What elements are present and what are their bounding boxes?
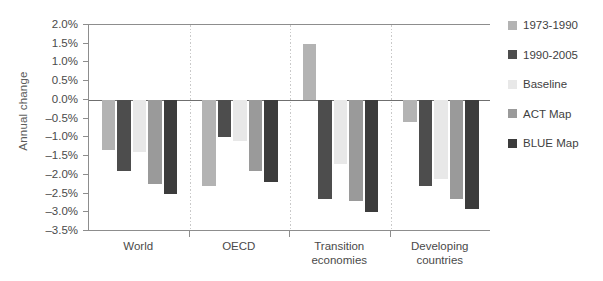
bar xyxy=(218,100,232,137)
y-axis-tick-label: –0.5% xyxy=(24,112,78,124)
y-axis-tick-label: –2.5% xyxy=(24,187,78,199)
bar xyxy=(434,100,448,179)
category-label-line: countries xyxy=(390,253,491,267)
legend-color-swatch xyxy=(508,50,517,59)
legend-item-label: Baseline xyxy=(523,78,567,90)
bar xyxy=(148,100,162,184)
bar xyxy=(117,100,131,171)
group-separator xyxy=(391,25,392,231)
x-axis-category-label: Developingcountries xyxy=(390,239,491,267)
legend-item-label: ACT Map xyxy=(523,108,571,120)
bar xyxy=(264,100,278,182)
legend-color-swatch xyxy=(508,139,517,148)
y-axis-tick-label: –3.5% xyxy=(24,224,78,236)
bar xyxy=(133,100,147,152)
bar xyxy=(303,44,317,100)
y-axis-tick-label: 1.5% xyxy=(24,37,78,49)
legend-item-label: 1973-1990 xyxy=(523,19,578,31)
plot-area xyxy=(88,24,490,230)
y-axis-tick-label: 1.0% xyxy=(24,55,78,67)
category-label-line: economies xyxy=(289,253,390,267)
bar xyxy=(102,100,116,151)
bar-chart-figure: Annual change 2.0%1.5%1.0%0.5%0.0%–0.5%–… xyxy=(0,0,603,281)
legend-item-label: 1990-2005 xyxy=(523,49,578,61)
legend-item[interactable]: ACT Map xyxy=(508,107,571,121)
legend-item[interactable]: 1990-2005 xyxy=(508,48,578,62)
category-label-line: World xyxy=(88,239,189,253)
bar xyxy=(334,100,348,164)
bar xyxy=(465,100,479,209)
bar xyxy=(233,100,247,141)
x-axis-tick-mark xyxy=(189,230,190,237)
bar xyxy=(202,100,216,186)
legend-item[interactable]: 1973-1990 xyxy=(508,18,578,32)
x-axis-tick-mark xyxy=(390,230,391,237)
y-axis-tick-labels: 2.0%1.5%1.0%0.5%0.0%–0.5%–1.0%–1.5%–2.0%… xyxy=(24,0,78,281)
x-axis-category-label: World xyxy=(88,239,189,253)
y-axis-tick-label: –2.0% xyxy=(24,168,78,180)
x-axis-tick-mark xyxy=(289,230,290,237)
category-label-line: OECD xyxy=(189,239,290,253)
legend-item[interactable]: Baseline xyxy=(508,77,567,91)
bar xyxy=(403,100,417,122)
legend-color-swatch xyxy=(508,21,517,30)
legend-item-label: BLUE Map xyxy=(523,137,579,149)
x-axis-category-label: Transitioneconomies xyxy=(289,239,390,267)
group-separator xyxy=(290,25,291,231)
legend-item[interactable]: BLUE Map xyxy=(508,136,579,150)
bar xyxy=(318,100,332,199)
bar xyxy=(450,100,464,199)
bar xyxy=(249,100,263,171)
legend-color-swatch xyxy=(508,80,517,89)
bar xyxy=(365,100,379,212)
category-label-line: Transition xyxy=(289,239,390,253)
y-axis-tick-label: 0.0% xyxy=(24,93,78,105)
category-label-line: Developing xyxy=(390,239,491,253)
y-axis-tick-label: 0.5% xyxy=(24,74,78,86)
bar xyxy=(349,100,363,201)
y-axis-tick-label: 2.0% xyxy=(24,18,78,30)
y-axis-tick-label: –1.5% xyxy=(24,149,78,161)
legend-color-swatch xyxy=(508,109,517,118)
y-axis-tick-label: –1.0% xyxy=(24,130,78,142)
bar xyxy=(164,100,178,194)
group-separator xyxy=(190,25,191,231)
bar xyxy=(419,100,433,186)
x-axis-category-label: OECD xyxy=(189,239,290,253)
y-axis-tick-label: –3.0% xyxy=(24,205,78,217)
